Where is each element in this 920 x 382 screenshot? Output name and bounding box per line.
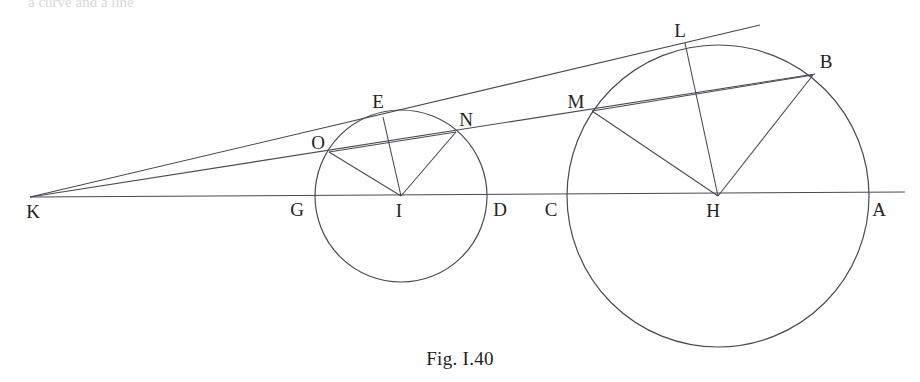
radius-h-l: [685, 43, 718, 196]
figure-caption: Fig. I.40: [0, 348, 920, 370]
point-label-e: E: [372, 92, 384, 111]
chord-o-n: [329, 132, 456, 152]
radius-h-b: [718, 75, 813, 196]
geometry-diagram-canvas: [0, 0, 920, 382]
point-label-i: I: [396, 201, 402, 220]
point-label-n: N: [459, 110, 473, 129]
point-label-b: B: [820, 52, 833, 71]
radius-i-o: [329, 152, 401, 196]
radius-i-e: [383, 117, 401, 196]
point-label-o: O: [311, 133, 325, 152]
point-label-l: L: [674, 21, 686, 40]
circles-group: [315, 45, 869, 347]
point-label-c: C: [545, 200, 558, 219]
radius-i-n: [401, 132, 456, 196]
point-label-h: H: [706, 201, 720, 220]
point-label-g: G: [290, 200, 304, 219]
chord-m-b: [592, 75, 813, 111]
geometry-figure: a curve and a line KGIDCHAOENMLB Fig. I.…: [0, 0, 920, 382]
secant-line-k-o-n-m-b: [30, 74, 815, 197]
point-label-d: D: [493, 200, 507, 219]
radius-h-m: [592, 111, 718, 196]
point-label-k: K: [26, 202, 40, 221]
point-label-m: M: [568, 92, 585, 111]
baseline-k-a: [30, 192, 905, 197]
point-label-a: A: [872, 200, 886, 219]
